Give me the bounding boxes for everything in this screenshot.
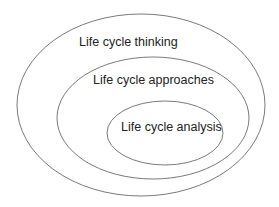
label-life-cycle-analysis: Life cycle analysis (121, 120, 222, 134)
label-life-cycle-approaches: Life cycle approaches (93, 73, 214, 87)
diagram-canvas: Life cycle thinking Life cycle approache… (0, 0, 279, 207)
label-life-cycle-thinking: Life cycle thinking (79, 35, 178, 49)
nested-ellipse-diagram: Life cycle thinking Life cycle approache… (0, 0, 279, 207)
